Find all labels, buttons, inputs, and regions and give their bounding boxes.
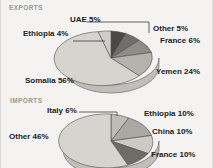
exports-label-yemen: Yemen 24% [156, 67, 200, 76]
imports-label-other: Other 46% [9, 132, 49, 141]
imports-label-china: China 10% [152, 127, 192, 136]
imports-label-ethiopia: Ethiopia 10% [144, 109, 194, 118]
imports-label-italy: Italy 6% [47, 106, 77, 115]
imports-chart-panel: IMPORTS [1, 95, 212, 168]
exports-label-france: France 6% [160, 36, 200, 45]
exports-label-somalia: Somalia 56% [25, 76, 74, 85]
exports-label-ethiopia: Ethiopia 4% [23, 29, 68, 38]
exports-chart-panel: EXPORTS [1, 0, 212, 95]
exports-label-uae: UAE 5% [70, 15, 101, 24]
imports-label-france: France 10% [151, 150, 195, 159]
chart-page: EXPORTS [0, 0, 213, 168]
exports-label-other: Other 5% [153, 24, 188, 33]
